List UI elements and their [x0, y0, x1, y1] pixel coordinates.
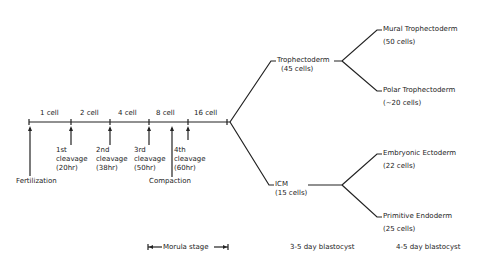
stage-1-cell: 1 cell	[40, 109, 59, 118]
polar-trophectoderm-label: Polar Trophectoderm(~20 cells)	[383, 86, 455, 108]
embryonic-ectoderm-label: Embryonic Ectoderm(22 cells)	[383, 149, 456, 171]
event-3rd-cleavage: 3rdcleavage(50hr)	[134, 146, 166, 173]
event-4th-cleavage: 4thcleavage(60hr)	[174, 146, 206, 173]
event-fertilization: Fertilization	[16, 177, 57, 186]
stage-4-cell: 4 cell	[118, 109, 137, 118]
event-2nd-cleavage: 2ndcleavage(38hr)	[96, 146, 128, 173]
stage-8-cell: 8 cell	[156, 109, 175, 118]
morula-stage-label: Morula stage	[163, 243, 209, 252]
event-compaction: Compaction	[149, 177, 191, 186]
primitive-endoderm-label: Primitive Endoderm(25 cells)	[383, 212, 452, 234]
event-1st-cleavage: 1stcleavage(20hr)	[56, 146, 88, 173]
stage-16-cell: 16 cell	[194, 109, 217, 118]
mural-trophectoderm-label: Mural Trophectoderm(50 cells)	[383, 25, 457, 47]
blastocyst-4-5-label: 4-5 day blastocyst	[396, 243, 461, 252]
blastocyst-3-5-label: 3-5 day blastocyst	[290, 243, 355, 252]
icm-label: ICM(15 cells)	[275, 180, 307, 198]
stage-2-cell: 2 cell	[80, 109, 99, 118]
trophectoderm-label: Trophectoderm(45 cells)	[277, 56, 330, 74]
